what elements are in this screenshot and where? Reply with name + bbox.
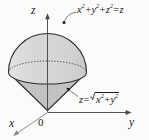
sphere-leader-dot: [63, 21, 66, 24]
radicand: x2+y2: [95, 92, 119, 105]
x-axis-arrowhead: [13, 130, 19, 136]
y-axis-label: y: [129, 117, 134, 129]
radical-tick-icon: [90, 92, 95, 100]
origin-label: 0: [38, 117, 44, 128]
sphere-plus-2: +: [99, 4, 106, 15]
sphere-equals: =: [113, 4, 120, 15]
z-axis-label: z: [31, 5, 35, 17]
math-figure-ice-cream-cone: x2+y2+z2=z z= x2+y2 z y x 0: [0, 0, 149, 140]
figure-canvas: [0, 0, 149, 140]
y-axis-arrowhead: [126, 110, 132, 115]
sqrt-icon: x2+y2: [90, 92, 120, 105]
sphere-equation-label: x2+y2+z2=z: [77, 3, 124, 15]
cone-exp-y: 2: [115, 92, 118, 99]
cone-equals: =: [83, 94, 90, 105]
x-axis-label: x: [9, 118, 14, 130]
cone-leader-line: [69, 90, 79, 97]
z-axis-arrowhead: [45, 13, 50, 19]
sphere-rhs: z: [120, 4, 124, 15]
cone-equation-label: z= x2+y2: [79, 92, 119, 105]
sphere-leader-line: [65, 13, 77, 22]
